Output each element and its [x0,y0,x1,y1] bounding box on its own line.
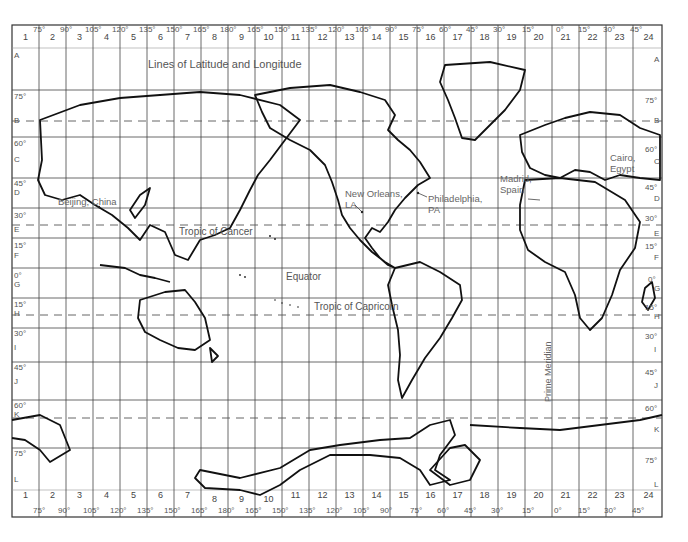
latitude-label: 75° [14,450,26,458]
column-number: 9 [228,495,255,504]
longitude-label: 0° [556,26,564,34]
latitude-label: 60° [645,146,657,154]
longitude-label: 30° [491,507,503,515]
longitude-label: 165° [191,507,208,515]
longitude-label: 60° [439,26,451,34]
latitude-label: 30° [645,215,657,223]
column-number: 22 [579,33,606,42]
row-letter: C [654,158,660,166]
latitude-label: 60° [645,405,657,413]
longitude-label: 150° [274,26,291,34]
longitude-label: 120° [110,507,127,515]
longitude-label: 135° [137,507,154,515]
map-title: Lines of Latitude and Longitude [148,58,302,70]
row-letter: F [14,252,19,260]
longitude-label: 0° [554,507,562,515]
column-number: 13 [336,33,363,42]
longitude-label: 105° [85,26,102,34]
row-letter: A [654,56,659,64]
latitude-label: 30° [14,212,26,220]
europe-outline [520,112,660,180]
longitude-label: 150° [272,507,289,515]
row-letter: E [654,230,659,238]
longitude-label: 150° [166,26,183,34]
column-number: 17 [444,33,471,42]
column-number: 10 [255,495,282,504]
row-letter: A [14,52,19,60]
row-letter: K [654,426,659,434]
longitude-label: 30° [603,26,615,34]
column-number: 2 [39,33,66,42]
world-map-grid [0,0,688,542]
column-number: 1 [12,33,39,42]
tropic-of-cancer-label: Tropic of Cancer [179,227,253,237]
column-number: 15 [390,491,417,500]
column-number: 11 [282,491,309,500]
longitude-label: 15° [578,26,590,34]
column-number: 23 [606,33,633,42]
longitude-label: 30° [493,26,505,34]
longitude-label: 180° [220,26,237,34]
indonesia-outline [100,265,170,282]
longitude-label: 90° [60,26,72,34]
longitude-label: 75° [33,507,45,515]
column-number: 20 [525,33,552,42]
antarctica-main-outline [195,420,455,495]
column-number: 7 [174,491,201,500]
row-letter: C [14,156,20,164]
longitude-lines [39,25,633,517]
row-letter: I [654,346,656,354]
latitude-lines [12,90,662,448]
row-letter: B [654,117,659,125]
dashed-special-lines [12,121,662,418]
column-number: 15 [390,33,417,42]
column-number: 12 [309,491,336,500]
row-letter: L [14,476,18,484]
column-number: 6 [147,33,174,42]
row-letter: H [14,310,20,318]
longitude-label: 15° [522,507,534,515]
place-label-philadelphia: Philadelphia, PA [428,194,482,216]
latitude-label: 30° [645,333,657,341]
longitude-label: 135° [301,26,318,34]
prime-meridian-label: Prime Meridian [543,341,553,402]
longitude-label: 105° [83,507,100,515]
longitude-label: 45° [630,26,642,34]
longitude-label: 105° [355,26,372,34]
row-letter: J [654,382,658,390]
column-number: 7 [174,33,201,42]
row-letter: L [654,481,658,489]
longitude-label: 45° [632,507,644,515]
longitude-label: 120° [326,507,343,515]
latitude-label: 75° [645,97,657,105]
greenland-outline [440,62,525,140]
tropic-of-capricorn-label: Tropic of Capricorn [314,302,399,312]
north-america-outline [255,85,430,268]
longitude-label: 15° [578,507,590,515]
longitude-label: 120° [112,26,129,34]
longitude-label: 165° [245,507,262,515]
row-letter: G [14,281,20,289]
latitude-label: 15° [645,304,657,312]
place-label-madrid: Madrid, Spain [500,174,532,196]
row-letter: G [654,285,660,293]
column-number: 16 [417,33,444,42]
longitude-label: 165° [247,26,264,34]
longitude-label: 90° [380,507,392,515]
column-number: 19 [498,33,525,42]
longitude-label: 150° [164,507,181,515]
column-number: 14 [363,491,390,500]
column-number: 9 [228,33,255,42]
continents [12,62,662,495]
column-number: 16 [417,491,444,500]
column-number: 6 [147,491,174,500]
longitude-label: 75° [410,507,422,515]
column-number: 21 [552,491,579,500]
row-letter: F [654,254,659,262]
row-letter: E [14,226,19,234]
column-number: 17 [444,491,471,500]
longitude-label: 30° [604,507,616,515]
africa-outline [520,178,640,330]
south-america-outline [388,262,462,398]
column-number: 18 [471,491,498,500]
